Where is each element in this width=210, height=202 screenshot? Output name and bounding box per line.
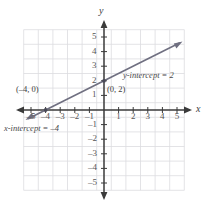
y-tick-label-2: 2	[92, 76, 97, 85]
x-tick-label-neg3: –3	[56, 112, 65, 121]
y-tick-label-neg3: –3	[88, 149, 97, 158]
x-tick-label-1: 1	[116, 112, 121, 121]
point-label-0-2: (0, 2)	[107, 85, 125, 94]
point-label-neg4-0: (–4, 0)	[16, 85, 39, 94]
x-tick-label-3: 3	[146, 112, 151, 121]
y-tick-label-neg5: –5	[88, 178, 97, 187]
x-tick-label-2: 2	[131, 112, 136, 121]
x-tick-label-4: 4	[160, 112, 165, 121]
y-tick-label-4: 4	[92, 47, 97, 56]
x-intercept-annotation: x-intercept = –4	[4, 124, 59, 133]
y-tick-label-3: 3	[92, 61, 97, 70]
x-tick-label-5: 5	[175, 112, 180, 121]
x-tick-label-neg2: –2	[70, 112, 79, 121]
y-axis-label: y	[99, 6, 103, 16]
y-intercept-annotation: y-intercept = 2	[123, 71, 174, 80]
y-tick-label-5: 5	[92, 32, 97, 41]
y-tick-label-neg4: –4	[88, 163, 97, 172]
x-axis-label: x	[196, 104, 200, 114]
y-tick-label-1: 1	[92, 90, 97, 99]
x-tick-label-neg4: –4	[41, 112, 50, 121]
coordinate-plane-figure: 5 4 3 2 1 –1 –2 –3 –4 –5 –5 –4 –3 –2 –1 …	[0, 0, 210, 202]
x-tick-label-neg5: –5	[27, 112, 36, 121]
y-tick-label-neg2: –2	[88, 134, 97, 143]
x-tick-label-neg1: –1	[85, 112, 94, 121]
graph-canvas	[0, 0, 210, 202]
